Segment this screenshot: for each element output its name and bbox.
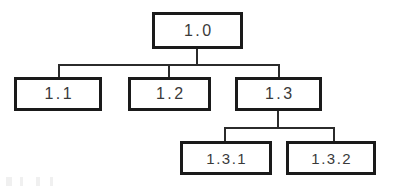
node-1-1-label: 1.1 <box>42 86 74 102</box>
node-1-3-1[interactable]: 1.3.1 <box>180 141 272 175</box>
connector-node-1-3-stem <box>277 110 279 128</box>
node-1-2-label: 1.2 <box>153 86 185 102</box>
node-1-0-label: 1.0 <box>181 23 213 39</box>
node-1-2[interactable]: 1.2 <box>128 77 211 111</box>
connector-root-stem <box>196 48 198 65</box>
node-1-3-2[interactable]: 1.3.2 <box>286 141 376 175</box>
connector-stem-node-1-3-1 <box>224 127 226 141</box>
connector-stem-node-1-3-2 <box>333 127 335 141</box>
connector-stem-node-1-2 <box>168 64 170 78</box>
connector-stem-node-1-3 <box>278 64 280 78</box>
node-1-1[interactable]: 1.1 <box>14 77 102 111</box>
node-1-3-1-label: 1.3.1 <box>205 151 247 166</box>
connector-level2-bus <box>224 127 335 129</box>
node-1-3[interactable]: 1.3 <box>235 77 322 111</box>
wbs-tree-diagram: 1.0 1.1 1.2 1.3 1.3.1 1.3.2 <box>0 0 393 188</box>
node-1-3-label: 1.3 <box>262 86 294 102</box>
node-1-0[interactable]: 1.0 <box>152 12 243 49</box>
scan-artifact <box>6 177 70 186</box>
connector-stem-node-1-1 <box>58 64 60 78</box>
node-1-3-2-label: 1.3.2 <box>310 151 352 166</box>
